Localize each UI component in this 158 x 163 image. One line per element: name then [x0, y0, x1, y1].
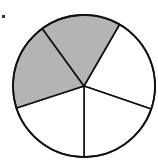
fraction-circle — [0, 0, 158, 163]
